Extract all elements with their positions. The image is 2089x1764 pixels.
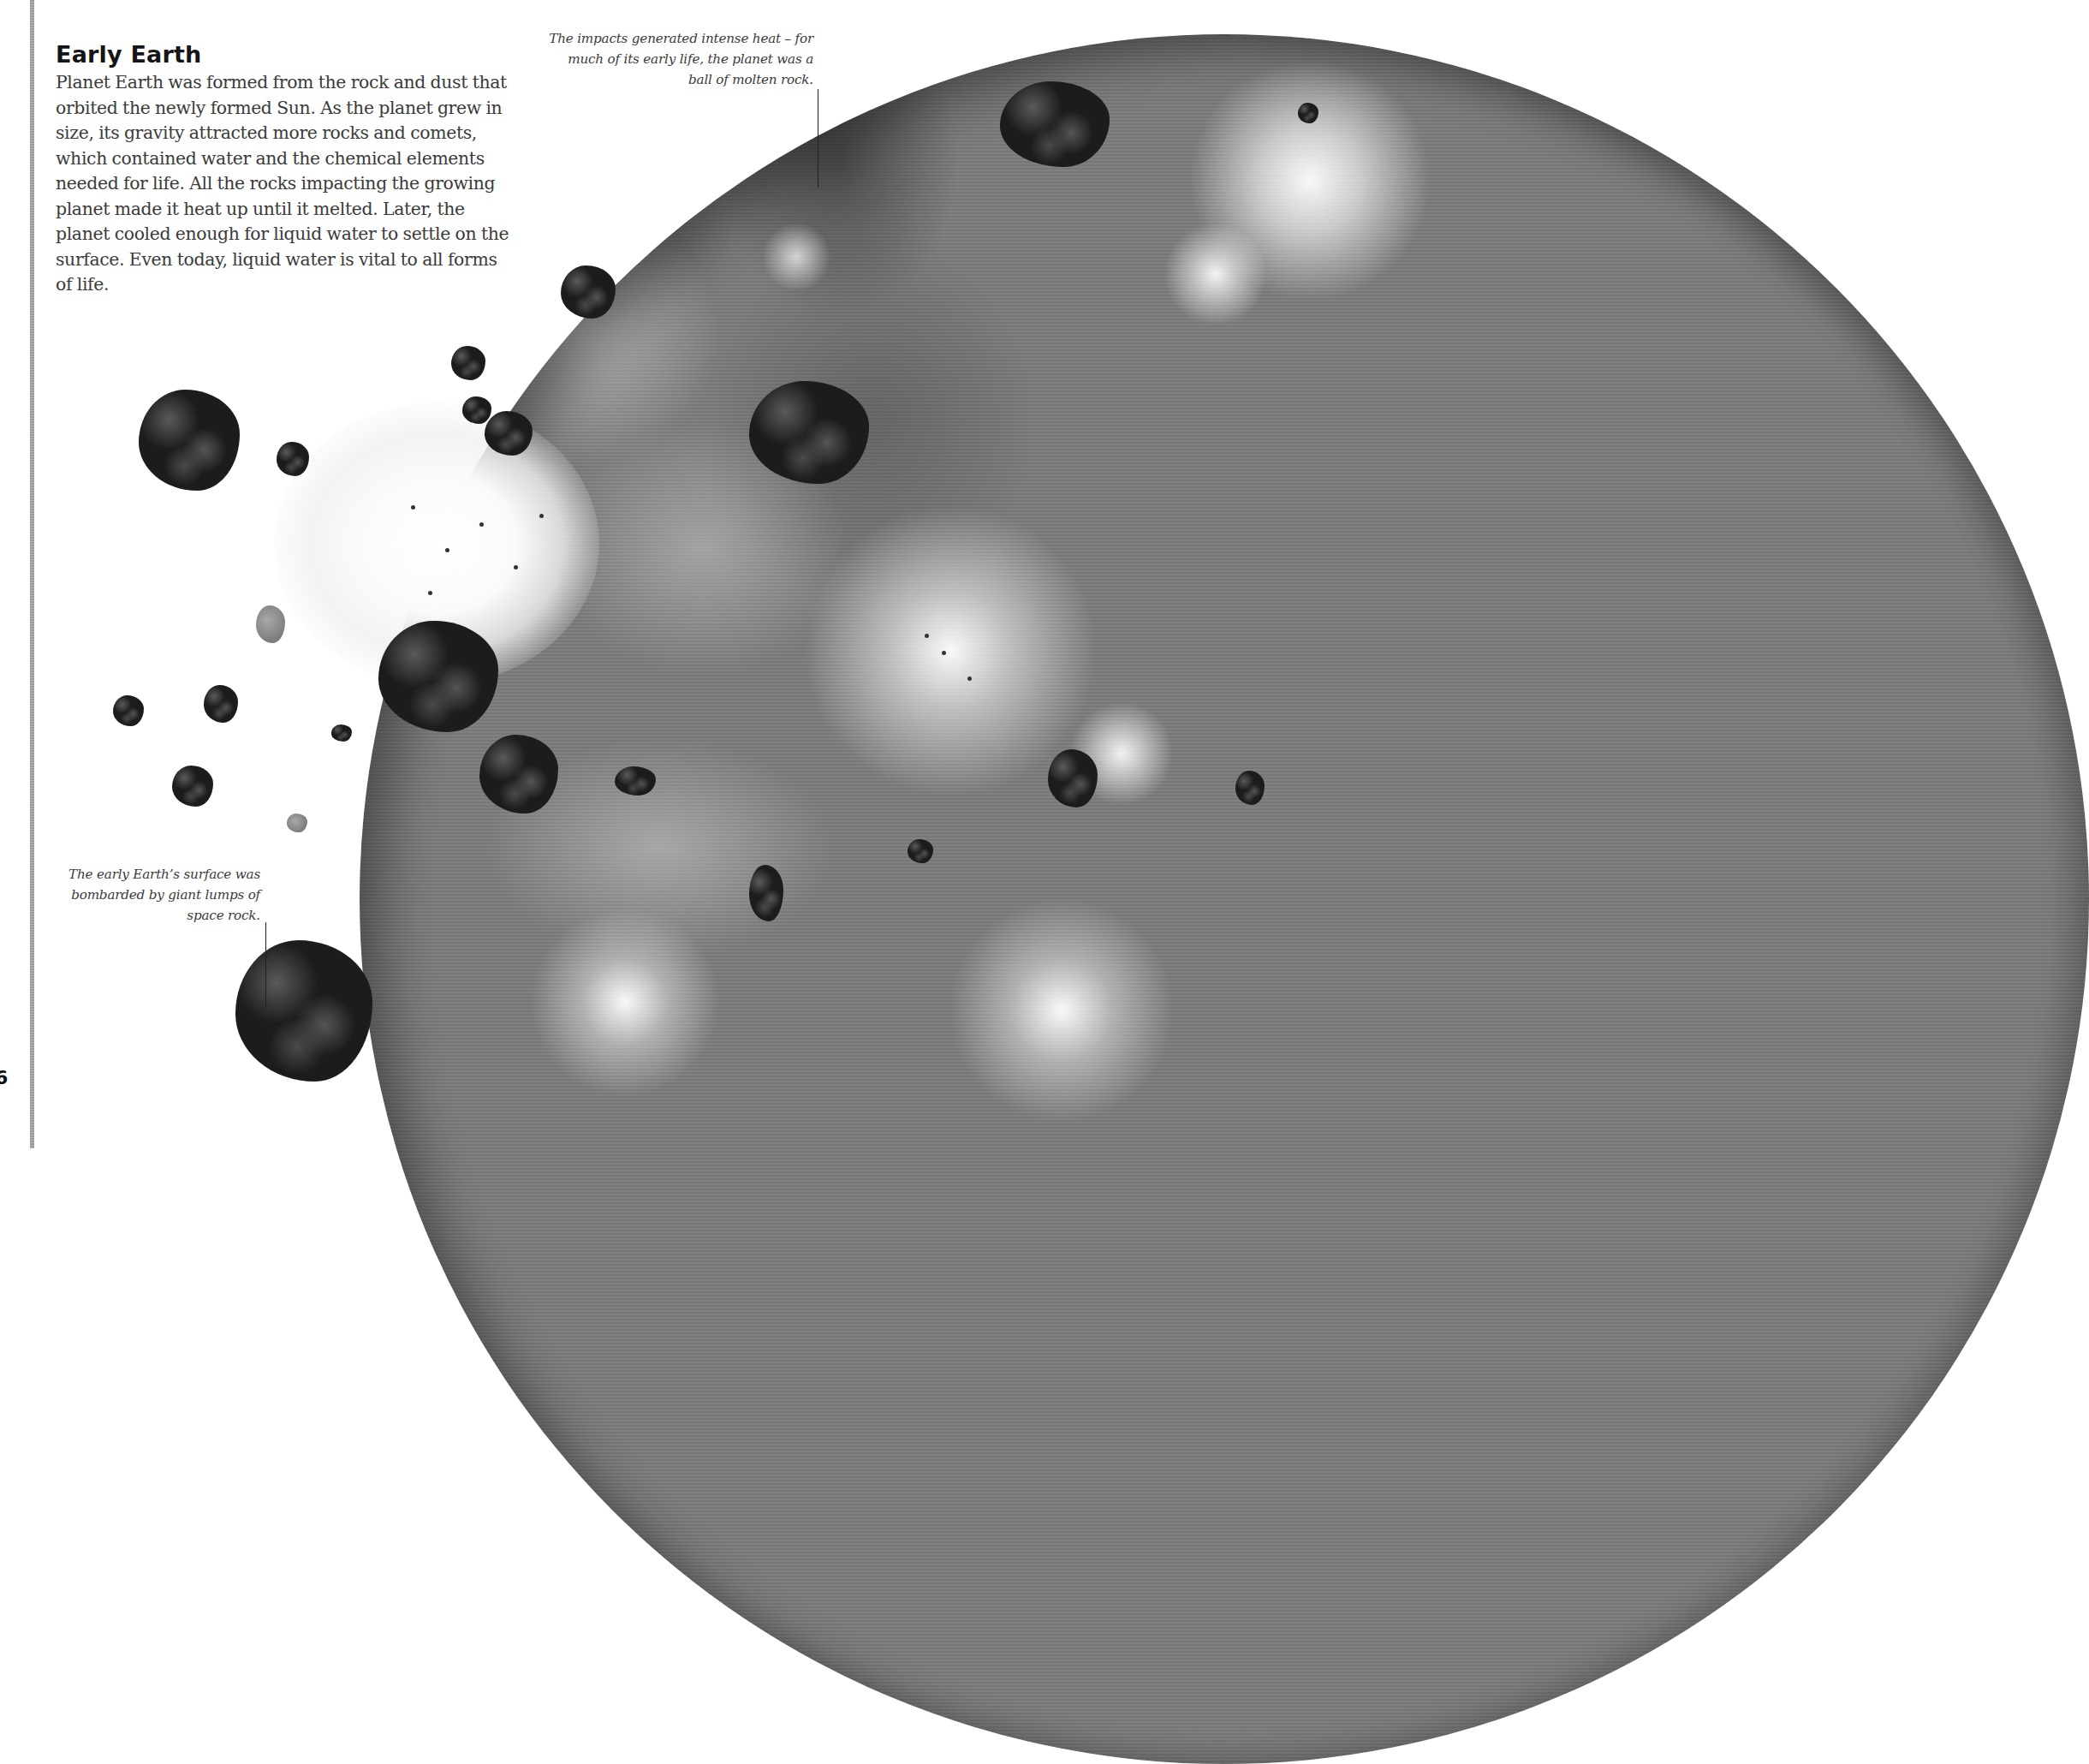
asteroid-rock — [113, 695, 144, 726]
intro-section: Early Earth Planet Earth was formed from… — [56, 39, 518, 298]
asteroid-rock — [485, 411, 533, 456]
asteroid-rock — [451, 346, 485, 380]
asteroid-rock-grey — [256, 605, 285, 643]
caption-leader-line — [265, 922, 266, 1008]
asteroid-rock-grey — [287, 813, 307, 832]
debris-dot — [925, 634, 929, 638]
caption-molten-rock: The impacts generated intense heat – for… — [548, 28, 813, 90]
asteroid-rock — [561, 265, 616, 319]
page-number: 6 — [0, 1067, 8, 1088]
asteroid-rock-large — [139, 390, 240, 491]
page-margin-rule — [30, 0, 34, 1148]
debris-dot — [942, 651, 946, 655]
asteroid-rock — [277, 442, 309, 476]
asteroid-rock — [204, 685, 238, 723]
asteroid-rock — [1298, 103, 1318, 123]
debris-dot — [479, 522, 484, 527]
asteroid-rock — [479, 735, 558, 813]
debris-dot — [514, 565, 518, 569]
debris-dot — [428, 591, 432, 595]
asteroid-rock — [615, 766, 656, 796]
debris-dot — [967, 676, 972, 681]
asteroid-rock — [749, 865, 783, 921]
asteroid-rock-large — [235, 940, 372, 1082]
debris-dot — [411, 505, 415, 510]
intro-paragraph: Planet Earth was formed from the rock an… — [56, 70, 518, 298]
asteroid-rock — [908, 839, 933, 863]
asteroid-rock — [172, 766, 213, 807]
caption-bombarded-surface: The early Earth’s surface was bombarded … — [60, 864, 260, 926]
section-title: Early Earth — [56, 39, 518, 70]
early-earth-planet-illustration — [360, 34, 2089, 1764]
debris-dot — [445, 548, 449, 552]
asteroid-rock — [1235, 771, 1265, 805]
debris-dot — [539, 514, 544, 518]
asteroid-rock — [1048, 749, 1098, 808]
asteroid-rock — [462, 396, 491, 424]
asteroid-rock — [331, 724, 352, 742]
